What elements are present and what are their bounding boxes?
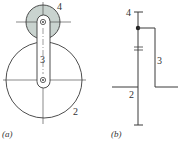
label-a-3: 3 — [40, 54, 45, 65]
pin-planet-dot — [42, 21, 44, 23]
label-b-3: 3 — [157, 55, 162, 66]
label-a-4: 4 — [57, 1, 62, 12]
caption-b: (b) — [111, 129, 122, 139]
panel-a: 4 3 2 (a) — [2, 1, 86, 139]
caption-a: (a) — [2, 129, 13, 139]
pin-sun-dot — [42, 79, 44, 81]
label-b-4: 4 — [126, 7, 131, 18]
label-a-2: 2 — [73, 106, 78, 117]
label-b-2: 2 — [129, 89, 134, 100]
panel-b: 4 3 2 (b) — [111, 7, 178, 139]
planetary-gear-diagram: 4 3 2 (a) 4 3 2 (b) — [0, 0, 182, 143]
